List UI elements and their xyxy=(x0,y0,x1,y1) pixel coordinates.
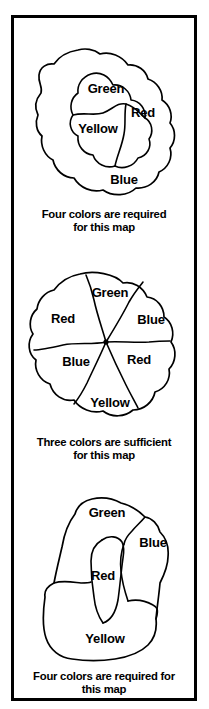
map-1-label-blue: Blue xyxy=(110,172,137,187)
map-2-label-red-right: Red xyxy=(127,352,151,367)
map-1-caption: Four colors are required for this map xyxy=(14,208,194,234)
map-2-label-yellow: Yellow xyxy=(90,395,130,410)
map-3-label-blue: Blue xyxy=(139,535,166,550)
map-3-label-green: Green xyxy=(89,505,126,520)
map-1-label-green: Green xyxy=(88,81,125,96)
map-panel-2: Green Red Blue Blue Red Yellow Three col… xyxy=(14,264,194,462)
map-3-caption: Four colors are required for this map xyxy=(14,670,194,696)
map-3-green-yellow-divider xyxy=(54,581,91,583)
map-3-blue-yellow-divider xyxy=(128,600,157,619)
map-2-label-red-left: Red xyxy=(51,311,75,326)
map-2-label-green: Green xyxy=(92,285,129,300)
figure-border: Green Red Yellow Blue Four colors are re… xyxy=(11,15,197,701)
map-3-label-red: Red xyxy=(91,568,115,583)
map-panel-1: Green Red Yellow Blue Four colors are re… xyxy=(14,36,194,234)
map-2-caption: Three colors are sufficient for this map xyxy=(14,436,194,462)
map-2-label-blue-right: Blue xyxy=(137,312,164,327)
map-2-center-vertex xyxy=(103,339,108,344)
map-3-label-yellow: Yellow xyxy=(85,631,125,646)
map-1-drawing: Green Red Yellow Blue xyxy=(14,36,194,206)
map-panel-3: Green Blue Red Yellow Four colors are re… xyxy=(14,490,194,696)
map-2-spoke-blue-red xyxy=(106,341,170,342)
map-3-drawing: Green Blue Red Yellow xyxy=(14,490,194,668)
map-2-label-blue-left: Blue xyxy=(62,354,89,369)
map-1-label-red: Red xyxy=(131,105,155,120)
map-2-drawing: Green Red Blue Blue Red Yellow xyxy=(14,264,194,432)
map-1-label-yellow: Yellow xyxy=(78,121,118,136)
map-2-spoke-red-blue xyxy=(34,342,106,350)
